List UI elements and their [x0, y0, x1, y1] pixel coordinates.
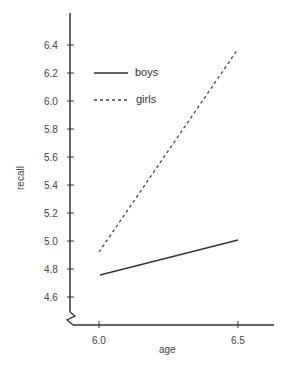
x-tick-label: 6.0	[92, 335, 106, 346]
y-tick-label: 5.6	[44, 152, 58, 163]
series-girls-line	[99, 49, 238, 252]
y-tick-label: 5.2	[44, 208, 58, 219]
y-tick-label: 6.4	[44, 40, 58, 51]
y-tick-label: 6.2	[44, 68, 58, 79]
y-tick-label: 4.6	[44, 292, 58, 303]
y-axis-label: recall	[15, 166, 26, 190]
y-tick-label: 5.4	[44, 180, 58, 191]
axis-break-icon	[67, 312, 75, 325]
y-tick-label: 4.8	[44, 264, 58, 275]
line-chart: 6.4 6.2 6.0 5.8 5.6 5.4 5.2 5.0 4.8 4.6 …	[0, 0, 293, 371]
legend-boys-label: boys	[135, 66, 159, 78]
x-axis: 6.0 6.5 age	[73, 321, 274, 355]
legend-girls-label: girls	[136, 93, 157, 105]
x-tick-label: 6.5	[231, 335, 245, 346]
series-boys-line	[100, 240, 238, 275]
y-tick-label: 6.0	[44, 96, 58, 107]
series-lines	[99, 49, 238, 275]
y-tick-labels: 6.4 6.2 6.0 5.8 5.6 5.4 5.2 5.0 4.8 4.6	[44, 40, 58, 303]
y-tick-label: 5.0	[44, 236, 58, 247]
x-axis-label: age	[159, 344, 176, 355]
y-tick-label: 5.8	[44, 124, 58, 135]
legend: boys girls	[94, 66, 159, 105]
y-axis: 6.4 6.2 6.0 5.8 5.6 5.4 5.2 5.0 4.8 4.6 …	[15, 13, 75, 325]
